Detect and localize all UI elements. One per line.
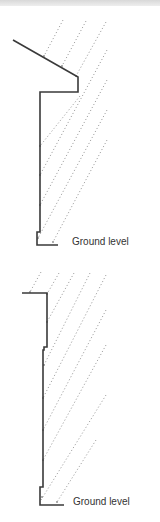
top-wall-outline [13, 40, 78, 245]
bottom-diagram [22, 272, 106, 505]
bottom-ground-level-label: Ground level [73, 496, 130, 507]
rain-exposure-diagram [0, 0, 160, 522]
top-rain-lines [37, 20, 107, 242]
top-impact-marks [37, 55, 77, 243]
top-diagram [13, 20, 107, 245]
top-ground-level-label: Ground level [72, 236, 129, 247]
bottom-rain-lines [30, 272, 106, 502]
